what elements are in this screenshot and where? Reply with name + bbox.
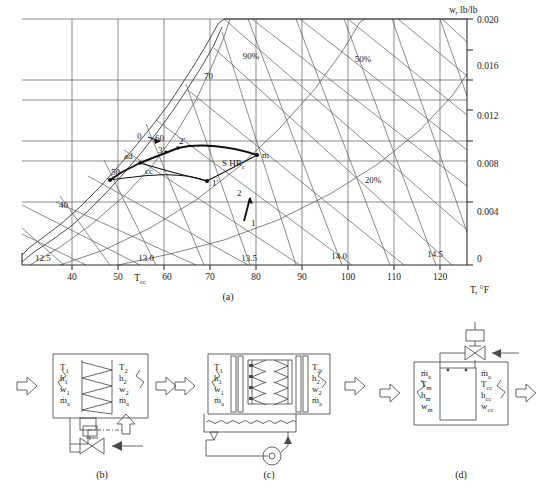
diagram-d-outlet-arrow <box>516 384 536 402</box>
shr-annotation: S HRc <box>222 158 245 170</box>
diagram-b-outlet-arrow <box>156 377 176 395</box>
x-marker-Tcc: Tcc <box>134 273 146 285</box>
x-tick-120: 120 <box>433 272 448 282</box>
svg-text:Tcc: Tcc <box>134 273 146 285</box>
diagram-d-spray-chamber: ṁa Tm hm wm ṁa Tcc hcc wcc (d) <box>380 322 536 481</box>
spray-nozzles-right <box>274 360 288 405</box>
point-m <box>255 153 259 157</box>
y-axis-title: w, lb/lb <box>449 5 478 15</box>
x-tick-110: 110 <box>387 272 401 282</box>
diagram-c-outlet-arrow <box>345 377 365 395</box>
point-2prime <box>176 146 180 150</box>
diagram-c-inlet-labels: T1 h1 w1 ṁa <box>214 362 224 407</box>
rh-label-90: 90% <box>243 51 260 61</box>
point-label-3prime: 3' <box>158 145 165 155</box>
sensor-arrow-icon <box>117 414 135 434</box>
shr-vector: 2 1 <box>237 188 256 228</box>
x-marker-Tcc-sub: cc <box>140 278 146 285</box>
diagram-b-inlet-arrow <box>17 377 37 395</box>
rh-curve-20 <box>118 74 467 265</box>
x-tick-90: 90 <box>297 272 307 282</box>
diagram-b-inlet-labels: T1 h1 w1 ṁa <box>60 362 70 407</box>
diagram-b-cooling-coil: T1 h1 w1 ṁa T2 h2 w2 ṁa <box>17 354 176 481</box>
svg-text:ṁa: ṁa <box>214 395 224 407</box>
svg-text:wcc: wcc <box>481 401 493 413</box>
figure-psychrometric-and-equipment: 0.020 0.016 0.012 0.008 0.004 0 40 50 60… <box>0 0 541 493</box>
vol-label-130: 13.0 <box>138 253 154 263</box>
x-tick-80: 80 <box>251 272 261 282</box>
y-tick-0: 0 <box>477 254 482 264</box>
diagram-d-inlet-arrow <box>380 384 400 402</box>
point-label-ad: ad <box>124 151 133 161</box>
point-ad <box>138 161 142 165</box>
rh-curve-50 <box>60 19 365 265</box>
diagram-b-outlet-labels: T2 h2 w2 ṁa <box>119 362 129 407</box>
vol-label-135: 13.5 <box>241 253 257 263</box>
rh-label-50: 50% <box>355 54 372 64</box>
y-axis-ticks <box>467 19 473 265</box>
water-level-icon <box>206 421 296 424</box>
shr-sub: c <box>242 163 245 170</box>
x-tick-100: 100 <box>341 272 356 282</box>
actuator-icon <box>466 330 484 341</box>
point-label-1: 1 <box>251 218 256 228</box>
rh-label-20: 20% <box>365 175 382 185</box>
x-tick-40: 40 <box>67 272 77 282</box>
point-label-2prime: 2' <box>179 136 186 146</box>
point-sat50 <box>108 178 112 182</box>
y-tick-0004: 0.004 <box>477 207 499 217</box>
wb-label-40: 40 <box>59 200 69 210</box>
pump-discharge-arrow <box>284 436 292 444</box>
svg-text:ṁa: ṁa <box>60 395 70 407</box>
vol-label-140: 14.0 <box>331 251 347 261</box>
y-tick-0008: 0.008 <box>477 159 499 169</box>
vol-label-145: 14.5 <box>427 249 443 259</box>
wb-label-70: 70 <box>204 71 214 81</box>
caption-c: (c) <box>263 469 274 481</box>
y-tick-0012: 0.012 <box>477 111 499 121</box>
diagram-d-outlet-labels: ṁa Tcc hcc wcc <box>481 368 493 413</box>
point-3prime <box>164 150 167 153</box>
diagram-d-inlet-labels: ṁa Tm hm wm <box>421 368 433 413</box>
x-axis-ticks <box>72 265 440 270</box>
svg-text:ṁa: ṁa <box>312 395 322 407</box>
y-tick-0016: 0.016 <box>477 61 499 71</box>
diagram-b-water-supply-arrow <box>112 441 143 451</box>
x-tick-50: 50 <box>113 272 123 282</box>
svg-text:ṁa: ṁa <box>119 395 129 407</box>
svg-text:wm: wm <box>421 401 433 413</box>
saturation-curve-inner <box>22 27 222 262</box>
chart-horizontal-gridlines <box>22 19 467 202</box>
psychrometric-chart: 0.020 0.016 0.012 0.008 0.004 0 40 50 60… <box>22 5 499 303</box>
vol-label-125: 12.5 <box>35 253 51 263</box>
y-tick-0020: 0.020 <box>477 15 499 25</box>
diagram-c-air-washer: T1 h1 w1 ṁa T2 h2 w2 ṁa (c) <box>175 354 365 481</box>
point-label-0: 0 <box>137 131 142 141</box>
x-axis-title: T, °F <box>470 285 489 295</box>
caption-a: (a) <box>222 291 233 303</box>
spray-nozzles-left <box>249 360 266 405</box>
point-1prime <box>205 179 209 183</box>
point-label-m: m <box>262 150 269 160</box>
saturation-curve <box>22 19 224 255</box>
caption-d: (d) <box>455 469 467 481</box>
x-tick-60: 60 <box>162 272 172 282</box>
diagram-d-valve-icon <box>465 346 485 360</box>
caption-b: (b) <box>96 469 108 481</box>
diagram-d-supply-arrow <box>492 349 501 358</box>
point-label-2: 2 <box>237 188 242 198</box>
x-tick-70: 70 <box>205 272 215 282</box>
diagram-c-inlet-arrow <box>175 377 195 395</box>
point-label-1prime: 1' <box>212 178 219 188</box>
diagram-c-outlet-labels: T2 h2 w2 ṁa <box>312 362 322 407</box>
shr-label: S HR <box>222 158 242 168</box>
point-label-cc: cc <box>145 166 153 176</box>
